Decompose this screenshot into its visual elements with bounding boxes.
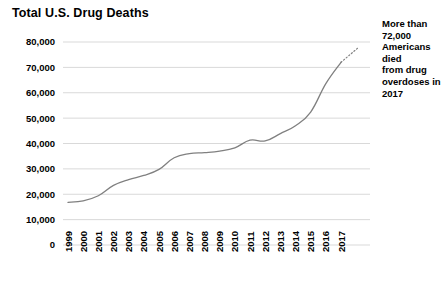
x-axis-tick-label: 2000	[78, 231, 89, 252]
annotation-line: More than	[382, 18, 444, 30]
x-axis-tick-label: 2006	[169, 231, 180, 252]
callout-annotation: More than72,000Americans diedfrom drugov…	[382, 18, 444, 99]
x-axis-tick-label: 2010	[229, 231, 240, 252]
data-series-line	[68, 62, 341, 202]
y-axis-tick-label: 10,000	[26, 214, 55, 225]
x-axis-tick-label: 1999	[63, 231, 74, 252]
gridline-group	[63, 42, 370, 245]
chart-plot-area: 010,00020,00030,00040,00050,00060,00070,…	[0, 0, 446, 292]
y-axis-tick-label: 70,000	[26, 62, 55, 73]
annotation-line: 2017	[382, 88, 444, 100]
x-axis-tick-label: 2016	[320, 231, 331, 252]
x-axis-tick-label: 2012	[260, 231, 271, 252]
drug-deaths-chart: Total U.S. Drug Deaths 010,00020,00030,0…	[0, 0, 446, 292]
x-axis-tick-label: 2011	[245, 231, 256, 252]
annotation-leader-line	[341, 47, 359, 62]
y-axis-tick-label: 50,000	[26, 113, 55, 124]
x-axis-tick-label: 2015	[305, 230, 316, 252]
y-axis-labels: 010,00020,00030,00040,00050,00060,00070,…	[26, 36, 55, 250]
x-axis-tick-label: 2017	[336, 231, 347, 252]
y-axis-tick-label: 80,000	[26, 36, 55, 47]
annotation-line: Americans died	[382, 41, 444, 64]
x-axis-tick-label: 2007	[184, 231, 195, 252]
x-axis-tick-label: 2008	[199, 231, 210, 252]
y-axis-tick-label: 20,000	[26, 189, 55, 200]
annotation-line: from drug	[382, 64, 444, 76]
x-axis-tick-label: 2001	[93, 230, 104, 252]
x-axis-tick-label: 2005	[154, 230, 165, 252]
x-axis-tick-label: 2002	[108, 231, 119, 252]
annotation-line: 72,000	[382, 30, 444, 42]
y-axis-tick-label: 0	[50, 239, 55, 250]
x-axis-labels: 1999200020012002200320042005200620072008…	[63, 230, 347, 252]
y-axis-tick-label: 60,000	[26, 87, 55, 98]
x-axis-tick-label: 2014	[290, 230, 301, 252]
y-axis-tick-label: 40,000	[26, 138, 55, 149]
y-axis-tick-label: 30,000	[26, 163, 55, 174]
x-axis-tick-label: 2013	[275, 231, 286, 252]
x-axis-tick-label: 2004	[138, 230, 149, 252]
x-axis-tick-label: 2003	[123, 231, 134, 252]
x-axis-tick-label: 2009	[214, 231, 225, 252]
annotation-line: overdoses in	[382, 76, 444, 88]
